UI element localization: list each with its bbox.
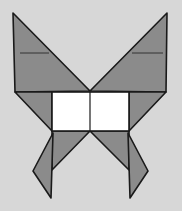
butterfly-diagram (0, 0, 182, 211)
